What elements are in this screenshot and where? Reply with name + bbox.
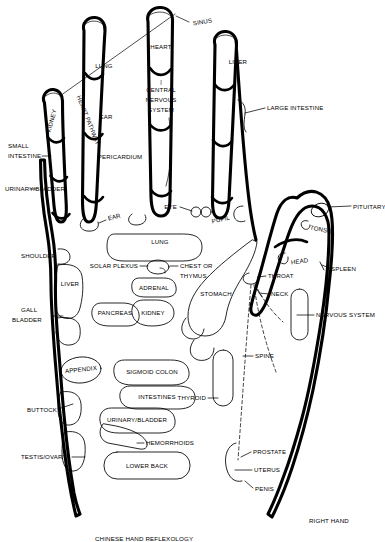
throat-zone <box>243 273 258 284</box>
label-cns-line1: CENTRAL <box>146 86 176 93</box>
large-intestine-leader <box>245 108 265 113</box>
label-adrenal: ADRENAL <box>139 284 169 291</box>
nervous-system-zone <box>291 289 308 340</box>
label-nervous-system: NERVOUS SYSTEM <box>316 311 375 318</box>
label-prostate: PROSTATE <box>253 448 286 455</box>
label-shoulder: SHOULDER <box>21 252 57 259</box>
label-stomach: STOMACH <box>200 290 231 297</box>
label-lower-back: LOWER BACK <box>126 462 168 469</box>
prostate-leader <box>241 452 251 457</box>
figure-caption: CHINESE HAND REFLEXOLOGY <box>95 535 193 542</box>
label-intestines: INTESTINES <box>138 393 175 400</box>
sinus-leader-2 <box>176 16 189 22</box>
label-sigmoid-colon: SIGMOID COLON <box>126 368 178 375</box>
liver-palm-zone <box>55 264 83 318</box>
label-gall-l2: BLADDER <box>12 316 42 323</box>
label-spleen: SPLEEN <box>331 265 356 272</box>
label-spine: SPINE <box>255 352 274 359</box>
label-testis-ovary: TESTIS/OVARY <box>21 453 67 460</box>
liver-lower-lobe <box>56 317 80 345</box>
label-chest-or: CHEST OR <box>180 262 213 269</box>
label-pericardium: PERICARDIUM <box>98 153 142 160</box>
thyroid-zone <box>213 350 233 406</box>
left-edge-annotations: SMALL INTESTINE URINARY/BLADDER SHOULDER… <box>5 142 85 460</box>
label-neck: NECK <box>271 290 289 297</box>
label-eye: EYE <box>164 203 177 210</box>
label-buttock: BUTTOCK <box>27 406 57 413</box>
label-throat: THROAT <box>268 272 294 279</box>
eye-leader <box>180 207 192 211</box>
solar-plexus-zone <box>147 260 169 274</box>
label-uterus: UTERUS <box>254 466 280 473</box>
penis-leader <box>245 481 253 488</box>
palm-right-border <box>237 50 257 240</box>
label-penis: PENIS <box>255 485 274 492</box>
label-pancreas: PANCREAS <box>98 309 132 316</box>
label-thyroid: THYROID <box>178 394 207 401</box>
label-appendix: APPENDIX <box>65 364 98 374</box>
label-urinary-bladder-left: URINARY/BLADDER <box>5 185 65 192</box>
shoulder-zone <box>58 249 70 264</box>
hand-reflexology-diagram: HEART | CENTRAL NERVOUS SYSTEM LUNG EAR … <box>0 0 385 542</box>
stomach-zone <box>188 240 257 336</box>
label-right-hand: RIGHT HAND <box>309 517 349 524</box>
label-ear-finger: EAR <box>100 113 113 120</box>
label-cns-tick: | <box>160 78 162 85</box>
label-liver-finger: LIVER <box>229 58 248 65</box>
ear-base-leader <box>99 220 106 223</box>
label-cns-line2: NERVOUS <box>145 96 176 103</box>
stomach-lobe-lower-1 <box>182 318 204 339</box>
label-small-intestine-l1: SMALL <box>8 142 29 149</box>
label-heart-finger: HEART <box>150 43 171 50</box>
label-ear-base: EAR <box>107 211 122 221</box>
palm-zone-group: LUNG SOLAR PLEXUS CHEST OR THYMUS ADRENA… <box>55 234 257 479</box>
label-gall-l1: GALL <box>21 306 38 313</box>
hemorrhoids-zone <box>100 424 147 449</box>
label-solar-plexus: SOLAR PLEXUS <box>90 262 138 269</box>
label-pituitary: PITUITARY <box>353 203 385 210</box>
label-cns-line3: SYSTEM <box>148 106 174 113</box>
stomach-lobe-lower-2 <box>190 340 214 360</box>
pupil-zone <box>234 206 245 222</box>
pituitary-leader <box>328 206 351 207</box>
reproductive-annotations: PROSTATE UTERUS PENIS <box>225 443 286 492</box>
label-kidney-palm: KIDNEY <box>141 309 165 316</box>
finger-base-zone-middle <box>129 214 146 225</box>
label-liver-palm: LIVER <box>61 280 80 287</box>
prostate-uterus-penis-zone <box>225 443 242 481</box>
label-urinary-bladder-palm: URINARY/BLADDER <box>107 416 167 423</box>
label-thymus: THYMUS <box>180 272 207 279</box>
eye-circle-2 <box>201 207 211 217</box>
eye-circle-1 <box>191 207 201 217</box>
spine-fan-left <box>238 285 251 460</box>
label-head: HEAD <box>290 256 309 265</box>
label-hemorrhoids: HEMORRHOIDS <box>146 439 194 446</box>
fingernail-group <box>46 12 234 96</box>
label-sinus: SINUS <box>192 16 212 26</box>
label-lung-palm: LUNG <box>151 238 169 245</box>
label-lung-finger: LUNG <box>95 62 113 69</box>
large-intestine-annotation: LARGE INTESTINE <box>238 100 323 132</box>
label-large-intestine: LARGE INTESTINE <box>267 104 323 111</box>
tonsil-zone <box>301 221 310 230</box>
label-small-intestine-l2: INTESTINE <box>8 152 41 159</box>
